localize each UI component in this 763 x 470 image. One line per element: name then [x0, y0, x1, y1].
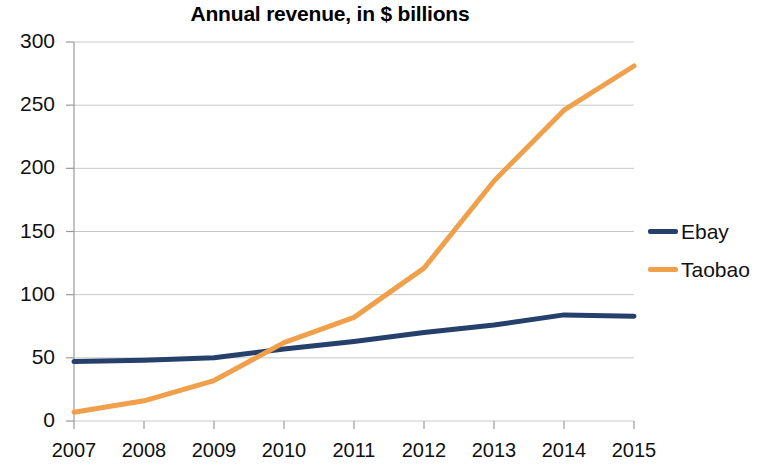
legend-swatch-taobao	[648, 267, 678, 272]
legend-swatch-ebay	[648, 229, 678, 234]
x-tick-label: 2014	[524, 439, 604, 462]
x-tick-label: 2009	[174, 439, 254, 462]
x-tick-label: 2010	[244, 439, 324, 462]
y-tick-label: 50	[0, 345, 55, 369]
y-tick-marks-group	[66, 42, 74, 421]
x-tick-label: 2012	[384, 439, 464, 462]
x-tick-marks-group	[74, 421, 634, 429]
legend-item-ebay[interactable]: Ebay	[648, 212, 763, 250]
series-line-ebay	[74, 315, 634, 362]
legend-item-taobao[interactable]: Taobao	[648, 250, 763, 288]
y-tick-label: 0	[0, 408, 55, 432]
x-tick-label: 2007	[34, 439, 114, 462]
gridlines-group	[74, 42, 634, 421]
legend-label-taobao: Taobao	[681, 259, 750, 280]
revenue-line-chart: Annual revenue, in $ billions 0501001502…	[0, 0, 763, 470]
y-tick-label: 200	[0, 155, 55, 179]
y-tick-label: 300	[0, 29, 55, 53]
y-tick-label: 250	[0, 92, 55, 116]
y-tick-label: 100	[0, 282, 55, 306]
y-tick-label: 150	[0, 219, 55, 243]
legend-label-ebay: Ebay	[681, 221, 729, 242]
x-tick-label: 2011	[314, 439, 394, 462]
chart-legend: Ebay Taobao	[648, 212, 763, 288]
x-tick-label: 2015	[594, 439, 674, 462]
series-lines-group	[74, 66, 634, 412]
x-tick-label: 2013	[454, 439, 534, 462]
x-tick-label: 2008	[104, 439, 184, 462]
